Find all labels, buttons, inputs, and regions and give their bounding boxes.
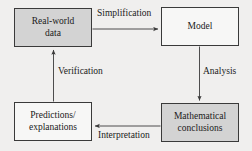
node-predictions-explanations: Predictions/ explanations [14, 102, 92, 141]
node-model: Model [161, 7, 239, 46]
edge-label-analysis: Analysis [203, 66, 236, 76]
node-mathematical-conclusions-label: Mathematical conclusions [172, 111, 228, 133]
node-model-label: Model [186, 21, 215, 32]
node-real-world-data: Real-world data [14, 8, 92, 47]
node-mathematical-conclusions: Mathematical conclusions [161, 103, 239, 142]
edge-label-simplification: Simplification [97, 8, 151, 18]
modelling-cycle-diagram: Real-world data Model Mathematical concl… [0, 0, 252, 151]
edge-label-interpretation: Interpretation [98, 130, 150, 140]
node-predictions-explanations-label: Predictions/ explanations [27, 110, 79, 132]
node-real-world-data-label: Real-world data [30, 16, 77, 38]
edge-label-verification: Verification [58, 66, 103, 76]
